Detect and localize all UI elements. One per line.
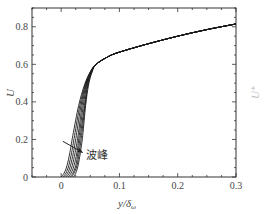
y-axis-label: U xyxy=(4,88,16,97)
tick-labels: 00.10.20.300.20.40.60.8 xyxy=(16,21,243,191)
y-tick-label: 0.6 xyxy=(16,59,29,70)
x-tick-label: 0 xyxy=(59,180,64,191)
x-axis-label: y/δω xyxy=(117,197,136,211)
x-axis-label-subscript: ω xyxy=(131,203,136,211)
y-tick-label: 0.4 xyxy=(16,96,29,107)
y-tick-label: 0 xyxy=(23,172,28,183)
y-tick-label: 0.2 xyxy=(16,134,29,145)
plot-frame xyxy=(32,8,236,177)
velocity-profile-chart: 00.10.20.300.20.40.60.8 波峰 U y/δω U⁺ xyxy=(0,0,264,214)
axis-ticks xyxy=(32,8,236,177)
x-tick-label: 0.2 xyxy=(171,180,184,191)
x-tick-label: 0.3 xyxy=(230,180,243,191)
adjacent-chart-y-label: U⁺ xyxy=(249,85,261,99)
annotation-label: 波峰 xyxy=(86,149,108,162)
x-axis-label-main: y/δ xyxy=(117,197,132,209)
y-tick-label: 0.8 xyxy=(16,21,29,32)
x-tick-label: 0.1 xyxy=(113,180,126,191)
peak-annotation: 波峰 xyxy=(63,141,108,161)
